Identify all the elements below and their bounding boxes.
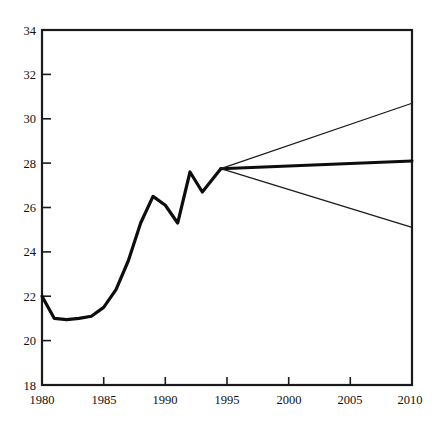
x-tick-label-2010: 2010: [398, 393, 423, 407]
x-tick-label-1990: 1990: [153, 393, 178, 407]
plot-frame: [42, 30, 412, 385]
x-tick-label-1980: 1980: [30, 393, 55, 407]
x-tick-label-2005: 2005: [338, 393, 363, 407]
y-tick-label-26: 26: [24, 201, 37, 215]
series-historical: [42, 169, 221, 320]
y-tick-label-28: 28: [24, 157, 37, 171]
x-tick-label-1995: 1995: [215, 393, 240, 407]
y-axis-labels: 18 20 22 24 26 28 30 32 34: [24, 24, 37, 393]
y-tick-label-24: 24: [24, 245, 37, 259]
x-axis-ticks: [42, 377, 412, 385]
y-axis-ticks: [42, 30, 51, 385]
y-tick-label-22: 22: [24, 290, 37, 304]
series-lower-projection: [221, 169, 412, 228]
series-central-projection: [221, 161, 412, 169]
y-tick-label-20: 20: [24, 334, 37, 348]
line-chart: 18 20 22 24 26 28 30 32 34 1980 1985 199…: [0, 0, 443, 432]
series-upper-projection: [221, 103, 412, 168]
y-tick-label-18: 18: [24, 379, 37, 393]
x-axis-labels: 1980 1985 1990 1995 2000 2005 2010: [30, 393, 423, 407]
x-tick-label-1985: 1985: [92, 393, 117, 407]
series-layer: [42, 103, 412, 319]
chart-container: 18 20 22 24 26 28 30 32 34 1980 1985 199…: [0, 0, 443, 432]
y-tick-label-30: 30: [24, 112, 37, 126]
y-tick-label-32: 32: [24, 68, 37, 82]
x-tick-label-2000: 2000: [277, 393, 302, 407]
y-tick-label-34: 34: [24, 24, 37, 38]
